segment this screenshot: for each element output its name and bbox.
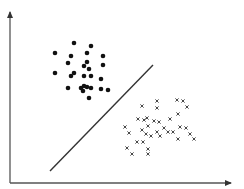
dot-point: [69, 54, 74, 59]
class-b-crosses: [123, 98, 195, 155]
dot-point: [101, 63, 106, 68]
cross-point: [185, 105, 188, 108]
cross-point: [130, 152, 133, 155]
cross-point: [140, 128, 143, 131]
cross-point: [127, 131, 130, 134]
cross-point: [123, 125, 126, 128]
cross-point: [175, 98, 178, 101]
cross-point: [168, 117, 171, 120]
cross-point: [192, 137, 195, 140]
cross-point: [149, 134, 152, 137]
cross-point: [146, 124, 149, 127]
dot-point: [66, 86, 71, 91]
cross-point: [171, 130, 174, 133]
dot-point: [99, 77, 104, 82]
cross-point: [125, 146, 128, 149]
scatter-diagram: [0, 0, 244, 189]
dot-point: [66, 61, 71, 66]
dot-point: [87, 96, 92, 101]
dot-point: [87, 67, 92, 72]
cross-point: [158, 134, 161, 137]
cross-point: [141, 140, 144, 143]
dot-point: [53, 71, 58, 76]
cross-point: [162, 126, 165, 129]
class-a-dots: [53, 41, 111, 101]
cross-point: [145, 116, 148, 119]
dot-point: [85, 60, 90, 65]
dot-point: [72, 41, 77, 46]
dot-point: [53, 51, 58, 56]
dot-point: [89, 74, 94, 79]
cross-point: [178, 125, 181, 128]
dot-point: [85, 51, 90, 56]
cross-point: [146, 152, 149, 155]
cross-point: [184, 126, 187, 129]
dot-point: [82, 74, 87, 79]
cross-point: [188, 132, 191, 135]
cross-point: [136, 117, 139, 120]
dot-point: [89, 86, 94, 91]
cross-point: [152, 119, 155, 122]
cross-point: [155, 130, 158, 133]
dot-point: [99, 87, 104, 92]
dot-point: [89, 44, 94, 49]
cross-point: [176, 137, 179, 140]
cross-point: [140, 104, 143, 107]
dot-point: [85, 85, 90, 90]
cross-point: [155, 99, 158, 102]
cross-point: [155, 106, 158, 109]
dot-point: [106, 88, 111, 93]
cross-point: [146, 147, 149, 150]
diagram-canvas: [0, 0, 244, 189]
cross-point: [181, 99, 184, 102]
dot-point: [72, 71, 77, 76]
cross-point: [157, 120, 160, 123]
cross-point: [176, 112, 179, 115]
dot-point: [81, 89, 86, 94]
dot-point: [82, 64, 87, 69]
dot-point: [101, 54, 106, 59]
cross-point: [135, 140, 138, 143]
cross-point: [144, 132, 147, 135]
cross-point: [166, 130, 169, 133]
cross-point: [142, 118, 145, 121]
